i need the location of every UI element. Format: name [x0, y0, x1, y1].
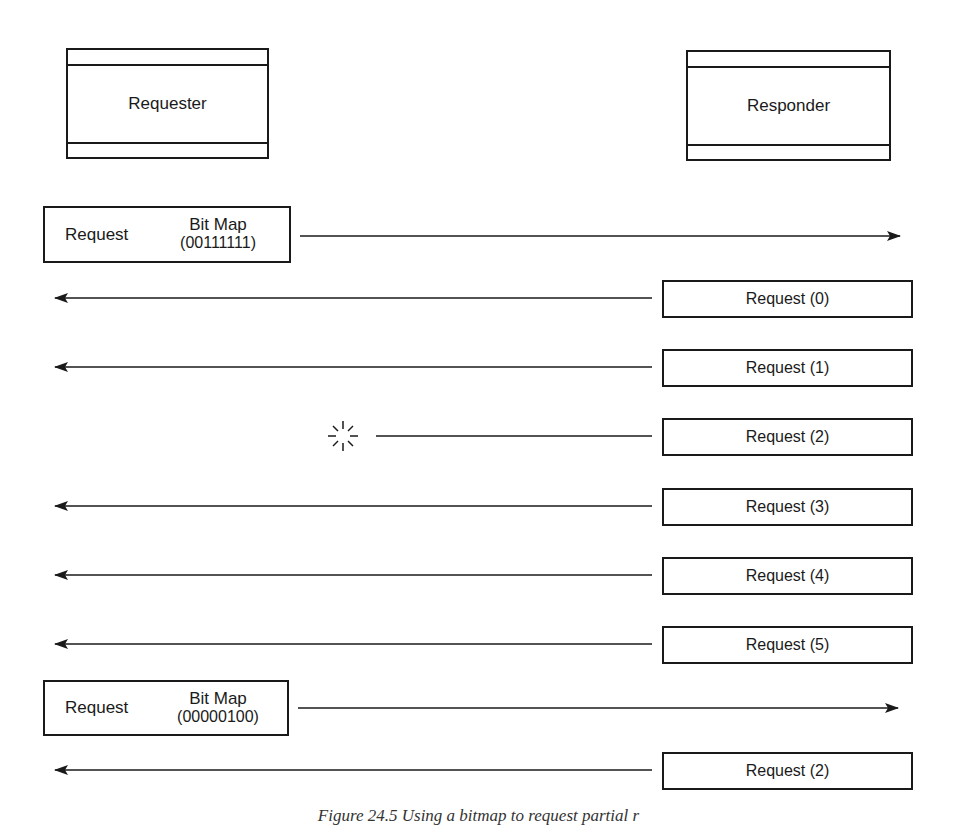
response-box: Request (4) [662, 557, 913, 595]
response-box: Request (0) [662, 280, 913, 318]
bitmap-request-box: Request Bit Map (00000100) [43, 680, 289, 736]
response-box-lost: Request (2) [662, 418, 913, 456]
figure-caption: Figure 24.5 Using a bitmap to request pa… [0, 806, 957, 825]
request-label: Request [65, 698, 128, 718]
lost-packet-burst-icon [328, 421, 358, 451]
response-box: Request (2) [662, 752, 913, 790]
request-label: Request [65, 225, 128, 245]
bitmap-request-box: Request Bit Map (00111111) [43, 206, 291, 263]
response-box: Request (5) [662, 626, 913, 664]
bitmap-label: Bit Map [163, 689, 273, 708]
bitmap-label: Bit Map [163, 215, 273, 234]
bitmap-value: (00111111) [163, 234, 273, 252]
response-box: Request (3) [662, 488, 913, 526]
response-box: Request (1) [662, 349, 913, 387]
bitmap-value: (00000100) [163, 708, 273, 726]
